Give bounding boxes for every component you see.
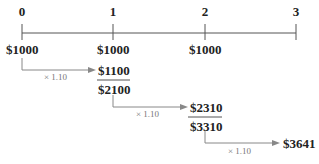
timeline-diagram-lines [0,0,319,164]
result-2: $2310 [190,100,223,116]
period-label-2: 2 [202,4,209,20]
multiplier-3: × 1.10 [228,146,251,156]
period-label-3: 3 [293,4,300,20]
result-3: $3641 [283,136,316,152]
period-label-1: 1 [110,4,117,20]
sum-1: $2100 [98,82,131,98]
period-label-0: 0 [19,4,26,20]
deposit-1: $1000 [97,42,130,58]
sum-2: $3310 [190,119,223,135]
result-1: $1100 [98,63,130,79]
multiplier-1: × 1.10 [44,72,67,82]
deposit-2: $1000 [189,42,222,58]
multiplier-2: × 1.10 [136,109,159,119]
deposit-0: $1000 [6,42,39,58]
